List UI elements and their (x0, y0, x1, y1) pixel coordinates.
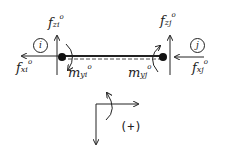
label-f-zi: fzio (48, 16, 64, 29)
label-f-xi: fxio (16, 61, 32, 74)
sign-convention-axes (96, 93, 138, 144)
label-f-zj: fzjo (160, 14, 176, 27)
label-f-xj: fxjo (192, 61, 208, 74)
node-j-joint (159, 53, 167, 61)
beam (62, 56, 163, 59)
node-j-label: j (190, 38, 205, 53)
sign-convention-label: (+) (120, 120, 142, 134)
label-m-yj: myjo (128, 66, 152, 79)
node-i-joint (58, 53, 66, 61)
label-m-yi: myio (68, 66, 92, 79)
node-i-label: i (33, 38, 48, 53)
